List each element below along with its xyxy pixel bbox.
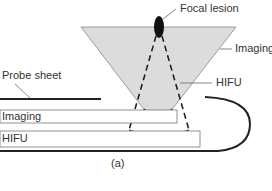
focal-lesion-leader	[163, 9, 176, 19]
hifu-beam-label: HIFU	[216, 77, 242, 88]
focal-lesion	[154, 16, 164, 38]
hifu-transducer	[0, 131, 200, 147]
hifu-transducer-label: HIFU	[2, 133, 28, 144]
figure-caption: (a)	[111, 158, 124, 169]
probe-sheet-label: Probe sheet	[2, 70, 61, 81]
imaging-transducer-label: Imaging	[2, 111, 41, 122]
probe-sheet-leader	[15, 84, 30, 98]
imaging-field	[81, 27, 236, 117]
imaging-beam-label: Imaging	[235, 43, 272, 54]
hifu-probe-diagram	[0, 0, 272, 191]
focal-lesion-label: Focal lesion	[180, 3, 239, 14]
